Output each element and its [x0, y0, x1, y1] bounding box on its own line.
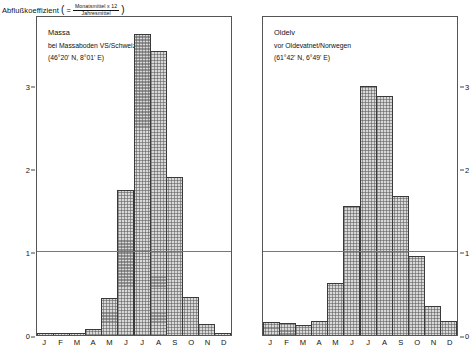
- bar-series-oldelv: [263, 17, 457, 335]
- x-axis-labels-massa: JFMAMJJASOND: [36, 337, 232, 348]
- y-tick-text: 2: [26, 165, 30, 174]
- y-tick-label: 0: [26, 332, 30, 341]
- y-tick-label: 1: [26, 248, 30, 257]
- x-tick-label: A: [85, 337, 101, 348]
- bar: [311, 321, 328, 335]
- y-axis-ticks-oldelv: 0123: [460, 0, 472, 320]
- y-tick-label: 3: [465, 82, 469, 91]
- x-tick-label: A: [376, 337, 392, 348]
- x-tick-label: S: [393, 337, 409, 348]
- bar: [134, 34, 151, 335]
- plot-area-massa: Massa bei Massaboden VS/Schweiz (46°20' …: [36, 16, 232, 336]
- x-tick-label: F: [52, 337, 68, 348]
- x-tick-label: O: [183, 337, 199, 348]
- bar-series-massa: [37, 17, 231, 335]
- bar: [214, 333, 231, 335]
- x-tick-label: M: [101, 337, 117, 348]
- chart-massa: Massa bei Massaboden VS/Schweiz (46°20' …: [36, 16, 232, 336]
- y-axis-ticks-massa: 0123: [8, 0, 34, 320]
- bar: [69, 333, 86, 335]
- y-tick-text: 3: [26, 82, 30, 91]
- y-tick-text: 2: [465, 165, 469, 174]
- x-tick-label: J: [344, 337, 360, 348]
- x-tick-label: A: [150, 337, 166, 348]
- x-tick-label: J: [262, 337, 278, 348]
- y-tick-label: 1: [465, 248, 469, 257]
- x-tick-label: M: [69, 337, 85, 348]
- bar: [166, 177, 183, 335]
- gridline: [263, 251, 457, 252]
- bar: [424, 306, 441, 335]
- x-tick-label: D: [216, 337, 232, 348]
- y-axis-caption-equals: =: [66, 6, 70, 15]
- y-tick-text: 0: [465, 332, 469, 341]
- y-tick-label: 2: [26, 165, 30, 174]
- plot-area-oldelv: Oldelv vor Oldevatnet/Norwegen (61°42' N…: [262, 16, 458, 336]
- y-tick-text: 3: [465, 82, 469, 91]
- x-tick-label: A: [311, 337, 327, 348]
- y-tick-text: 1: [26, 248, 30, 257]
- bar: [101, 298, 118, 335]
- bar: [408, 256, 425, 335]
- x-tick-label: N: [199, 337, 215, 348]
- x-axis-labels-oldelv: JFMAMJJASOND: [262, 337, 458, 348]
- chart-oldelv: Oldelv vor Oldevatnet/Norwegen (61°42' N…: [262, 16, 458, 336]
- bar: [263, 322, 280, 335]
- y-axis-caption-fraction: Monatsmittel x 12 Jahresmittel: [73, 4, 119, 17]
- x-tick-label: F: [278, 337, 294, 348]
- bar: [182, 297, 199, 335]
- bar: [343, 206, 360, 335]
- bar: [327, 283, 344, 335]
- y-tick-text: 0: [26, 332, 30, 341]
- x-tick-label: D: [442, 337, 458, 348]
- bar: [392, 196, 409, 335]
- bar: [37, 333, 54, 335]
- x-tick-label: N: [425, 337, 441, 348]
- bar: [53, 333, 70, 335]
- x-tick-label: J: [360, 337, 376, 348]
- x-tick-label: M: [327, 337, 343, 348]
- bar: [150, 51, 167, 335]
- bar: [440, 321, 457, 335]
- bar: [279, 323, 296, 335]
- gridline: [37, 251, 231, 252]
- x-tick-label: J: [118, 337, 134, 348]
- y-tick-label: 3: [26, 82, 30, 91]
- x-tick-label: M: [295, 337, 311, 348]
- bar: [198, 324, 215, 335]
- bar: [117, 190, 134, 335]
- bar: [85, 329, 102, 335]
- bar: [376, 96, 393, 335]
- x-tick-label: J: [36, 337, 52, 348]
- y-axis-caption-close-paren: ): [121, 5, 124, 15]
- y-tick-text: 1: [465, 248, 469, 257]
- bar: [360, 86, 377, 335]
- y-tick-label: 2: [465, 165, 469, 174]
- y-tick-label: 0: [465, 332, 469, 341]
- x-tick-label: O: [409, 337, 425, 348]
- x-tick-label: J: [134, 337, 150, 348]
- y-axis-caption-open-paren: (: [61, 5, 64, 15]
- x-tick-label: S: [167, 337, 183, 348]
- bar: [295, 325, 312, 335]
